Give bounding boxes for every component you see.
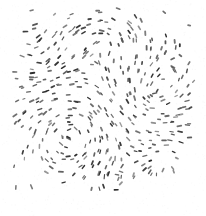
vector-field-plot-canvas bbox=[0, 0, 206, 216]
flow-field-figure bbox=[0, 0, 206, 216]
